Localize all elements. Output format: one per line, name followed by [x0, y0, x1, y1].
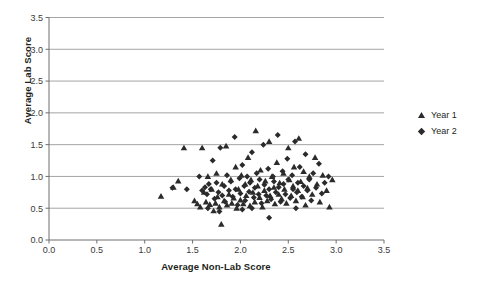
data-point	[199, 145, 206, 151]
data-point	[281, 186, 288, 192]
data-point	[181, 145, 188, 151]
data-point	[260, 142, 266, 148]
y-axis-title: Average Lab Score	[22, 1, 33, 161]
data-point	[314, 181, 321, 187]
data-point	[293, 197, 300, 203]
data-point	[158, 193, 165, 199]
data-point	[266, 138, 273, 144]
data-point	[325, 173, 331, 179]
data-point	[300, 168, 307, 174]
data-point	[275, 132, 281, 138]
data-point	[304, 187, 310, 193]
y-axis-tick-label: 0.0	[30, 235, 43, 245]
chart-legend: Year 1 Year 2	[414, 107, 457, 139]
data-point	[281, 181, 287, 187]
data-point	[212, 200, 219, 206]
data-point	[244, 173, 250, 179]
data-point	[289, 172, 295, 178]
x-axis-tick-label: 0.0	[43, 245, 56, 255]
data-point	[232, 164, 239, 170]
data-point	[282, 191, 288, 197]
data-point	[312, 154, 319, 160]
data-point	[262, 178, 269, 184]
data-point	[271, 179, 277, 185]
data-point	[245, 154, 252, 160]
data-point	[291, 164, 298, 170]
data-point	[319, 191, 325, 197]
legend-item-year-1: Year 1	[414, 107, 457, 123]
data-point	[296, 135, 303, 141]
legend-label-year-2: Year 2	[428, 126, 457, 136]
data-point	[217, 145, 223, 151]
data-point	[239, 162, 245, 168]
data-point	[309, 191, 316, 197]
data-point	[257, 167, 264, 173]
data-point	[213, 170, 220, 176]
data-point	[310, 170, 316, 176]
x-axis-tick-label: 0.5	[91, 245, 104, 255]
x-axis-tick-label: 3.5	[378, 245, 391, 255]
data-point	[317, 199, 324, 205]
data-point	[297, 164, 303, 170]
data-point	[232, 134, 238, 140]
data-point	[169, 185, 175, 191]
x-axis-tick-label: 2.0	[234, 245, 247, 255]
data-point	[319, 172, 326, 178]
data-point	[214, 180, 220, 186]
legend-item-year-2: Year 2	[414, 123, 457, 139]
x-axis-tick-label: 1.5	[186, 245, 199, 255]
data-point	[203, 199, 210, 205]
data-point	[237, 197, 244, 203]
legend-label-year-1: Year 1	[428, 110, 457, 120]
data-point	[175, 178, 182, 184]
data-point	[322, 180, 328, 186]
data-point	[228, 179, 234, 185]
data-point	[239, 206, 245, 212]
x-axis-title: Average Non-Lab Score	[46, 261, 386, 272]
data-point	[261, 187, 268, 193]
data-point	[249, 149, 255, 155]
data-point	[308, 198, 314, 204]
data-point	[218, 221, 225, 227]
data-point	[229, 200, 236, 206]
data-point	[226, 187, 232, 193]
data-point	[303, 151, 309, 157]
data-point	[252, 128, 259, 134]
data-point	[258, 200, 264, 206]
data-point	[326, 204, 333, 210]
data-point	[284, 156, 290, 162]
data-point	[210, 158, 216, 164]
y-axis-tick-label: 0.5	[30, 204, 43, 214]
data-point	[265, 166, 271, 172]
scatter-chart-figure: 0.00.51.01.52.02.53.03.50.00.51.01.52.02…	[0, 0, 499, 284]
data-point	[223, 143, 230, 149]
data-point	[257, 177, 263, 183]
data-point	[184, 186, 190, 192]
data-point	[266, 215, 272, 221]
plot-canvas: 0.00.51.01.52.02.53.03.50.00.51.01.52.02…	[0, 0, 499, 284]
x-axis-tick-label: 3.0	[330, 245, 343, 255]
data-point	[196, 173, 202, 179]
data-point	[224, 172, 230, 178]
data-point	[293, 205, 299, 211]
diamond-marker-icon	[414, 127, 428, 136]
triangle-marker-icon	[414, 111, 428, 119]
data-point	[302, 202, 309, 208]
data-point	[251, 194, 257, 200]
y-axis-tick-label: 1.0	[30, 172, 43, 182]
x-axis-tick-label: 2.5	[282, 245, 295, 255]
x-axis-tick-label: 1.0	[138, 245, 151, 255]
data-point	[274, 159, 281, 165]
data-point	[323, 187, 330, 193]
data-point	[266, 186, 272, 192]
data-point	[285, 145, 292, 151]
data-point	[316, 161, 322, 167]
data-point	[272, 201, 279, 207]
